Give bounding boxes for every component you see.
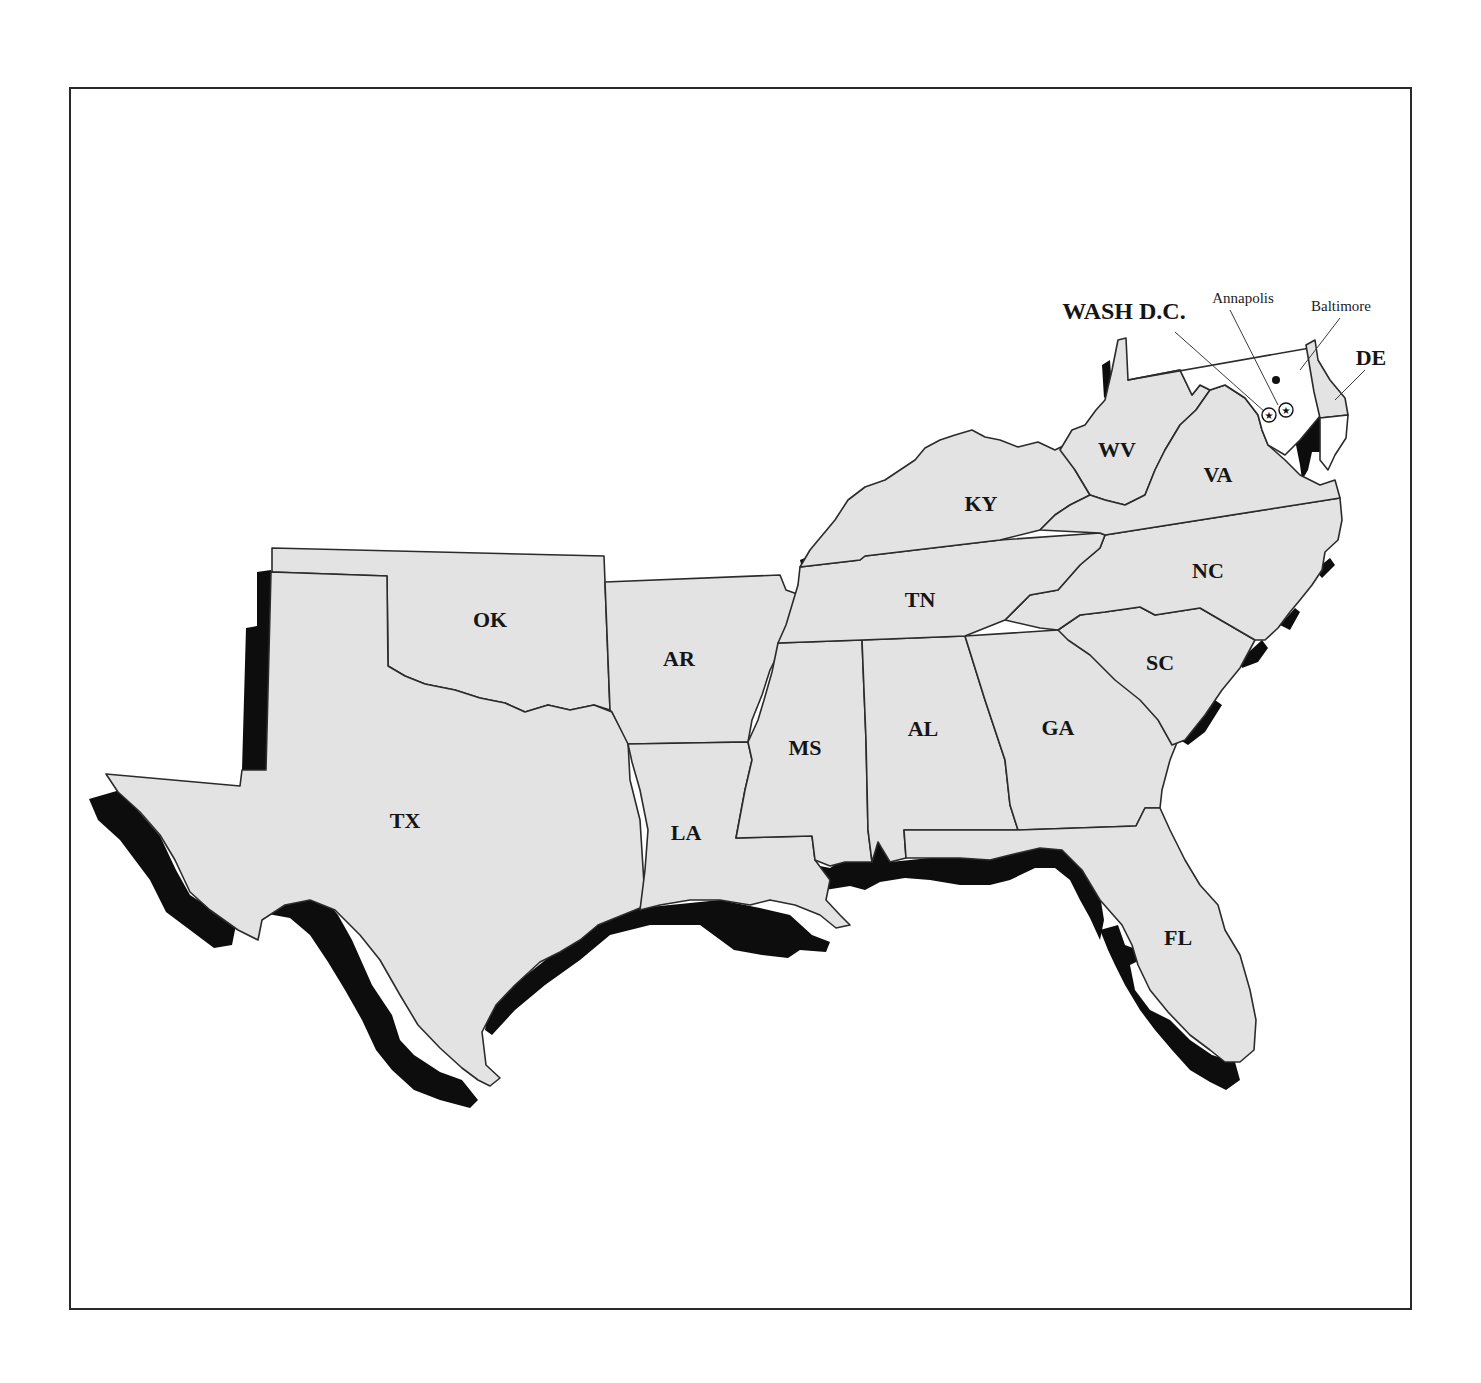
label-va: VA xyxy=(1204,462,1233,487)
label-tx: TX xyxy=(390,808,421,833)
svg-text:★: ★ xyxy=(1282,405,1291,416)
label-fl: FL xyxy=(1164,925,1192,950)
label-nc: NC xyxy=(1192,558,1224,583)
label-wv: WV xyxy=(1098,437,1136,462)
label-ky: KY xyxy=(965,491,998,516)
label-la: LA xyxy=(671,820,702,845)
label-tn: TN xyxy=(905,587,936,612)
state-fl[interactable] xyxy=(904,808,1256,1062)
states xyxy=(106,338,1348,1086)
state-md-eastern-shore[interactable] xyxy=(1320,415,1348,470)
label-al: AL xyxy=(908,716,939,741)
svg-text:★: ★ xyxy=(1265,410,1274,421)
label-ms: MS xyxy=(789,735,822,760)
label-sc: SC xyxy=(1146,650,1174,675)
label-de: DE xyxy=(1356,345,1387,370)
city-labels: WASH D.C. Annapolis Baltimore xyxy=(1062,290,1371,324)
label-ga: GA xyxy=(1042,715,1075,740)
label-wash-dc: WASH D.C. xyxy=(1062,298,1185,324)
dot-icon-baltimore xyxy=(1272,376,1280,384)
leader-de xyxy=(1335,370,1365,400)
label-annapolis: Annapolis xyxy=(1212,290,1274,306)
label-baltimore: Baltimore xyxy=(1311,298,1371,314)
label-ok: OK xyxy=(473,607,507,632)
southeast-us-map: ★ ★ TX OK AR LA MS AL GA FL SC NC TN KY … xyxy=(0,0,1481,1383)
label-ar: AR xyxy=(663,646,696,671)
